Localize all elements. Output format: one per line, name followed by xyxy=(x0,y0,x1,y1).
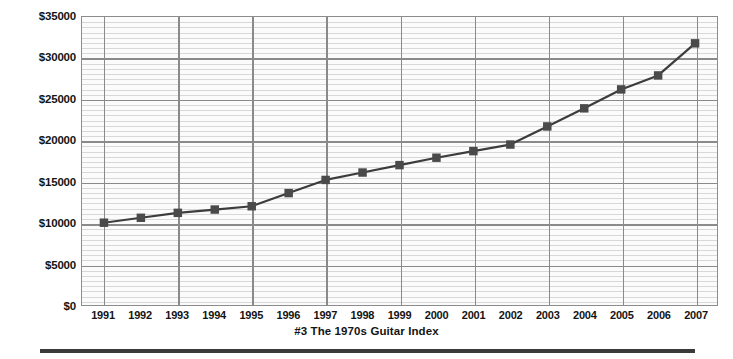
data-point-marker: 1992: 10600 xyxy=(137,214,145,222)
y-tick-label: $0 xyxy=(0,300,76,312)
plot-area: 1991: 100001992: 106001993: 112001994: 1… xyxy=(81,16,718,306)
footer-divider xyxy=(40,349,695,353)
data-point-marker: 1996: 13600 xyxy=(284,189,292,197)
y-tick-label: $35000 xyxy=(0,10,76,22)
data-point-marker: 2001: 18700 xyxy=(469,147,477,155)
data-point-marker: 2004: 23900 xyxy=(580,104,588,112)
data-point-marker: 1998: 16100 xyxy=(358,168,366,176)
y-tick-label: $5000 xyxy=(0,259,76,271)
data-point-marker: 1999: 17000 xyxy=(395,161,403,169)
y-tick-label: $20000 xyxy=(0,134,76,146)
data-point-marker: 2000: 17900 xyxy=(432,153,440,161)
data-point-marker: 2003: 21700 xyxy=(543,122,551,130)
data-point-marker: 2007: 31800 xyxy=(691,39,699,47)
data-point-marker: 2002: 19500 xyxy=(506,140,514,148)
data-point-marker: 1994: 11600 xyxy=(211,205,219,213)
y-tick-label: $25000 xyxy=(0,93,76,105)
data-point-marker: 1997: 15200 xyxy=(321,176,329,184)
y-axis: $0$5000$10000$15000$20000$25000$30000$35… xyxy=(0,0,76,320)
data-point-marker: 2006: 27900 xyxy=(654,71,662,79)
y-tick-label: $15000 xyxy=(0,176,76,188)
series-line xyxy=(104,43,695,222)
chart-caption: #3 The 1970s Guitar Index xyxy=(0,325,733,337)
y-tick-label: $30000 xyxy=(0,51,76,63)
data-point-marker: 1993: 11200 xyxy=(174,209,182,217)
data-point-marker: 1991: 10000 xyxy=(100,218,108,226)
data-series-line: 1991: 100001992: 106001993: 112001994: 1… xyxy=(82,17,717,305)
x-tick-label: 2007 xyxy=(672,309,720,321)
y-tick-label: $10000 xyxy=(0,217,76,229)
chart-figure: $0$5000$10000$15000$20000$25000$30000$35… xyxy=(0,0,733,359)
data-point-marker: 2005: 26200 xyxy=(617,85,625,93)
data-point-marker: 1995: 12000 xyxy=(247,202,255,210)
